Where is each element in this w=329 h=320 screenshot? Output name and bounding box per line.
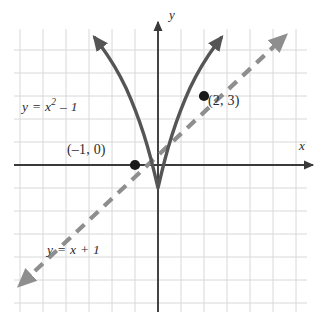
- intersection-point-minus1-0: [130, 160, 140, 170]
- y-axis-label: y: [169, 8, 175, 21]
- point-label-2-3: (2, 3): [208, 94, 240, 108]
- parabola-equation-tail: – 1: [56, 99, 77, 114]
- graph-figure: y = x2 – 1 y = x + 1 (–1, 0) (2, 3) x y: [0, 0, 329, 320]
- x-axis-label: x: [299, 139, 305, 152]
- parabola-equation-label: y = x2 – 1: [22, 98, 78, 113]
- line-equation-label: y = x + 1: [47, 243, 100, 257]
- coordinate-plane-svg: [0, 0, 329, 320]
- parabola-equation-base: y = x: [22, 99, 51, 114]
- point-label-minus1-0: (–1, 0): [67, 143, 106, 157]
